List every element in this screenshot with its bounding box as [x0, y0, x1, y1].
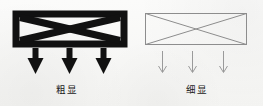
thin-display-figure: 细显 — [130, 0, 263, 106]
thin-arrow-2-icon — [189, 51, 197, 73]
bold-arrow-1-icon — [28, 48, 44, 74]
thin-x-cross-icon — [146, 14, 247, 45]
bold-arrow-3-icon — [96, 48, 112, 74]
bold-x-cross-icon — [20, 18, 120, 41]
thin-arrow-3-icon — [220, 51, 228, 73]
bold-arrow-2-icon — [62, 48, 78, 74]
illustration-page: 粗显 — [0, 0, 263, 106]
bold-display-figure: 粗显 — [0, 0, 133, 106]
thin-diagram — [130, 0, 263, 84]
thin-arrow-1-icon — [159, 51, 167, 73]
thin-display-caption: 细显 — [130, 84, 263, 95]
bold-display-caption: 粗显 — [0, 84, 133, 95]
bold-diagram — [0, 0, 133, 84]
